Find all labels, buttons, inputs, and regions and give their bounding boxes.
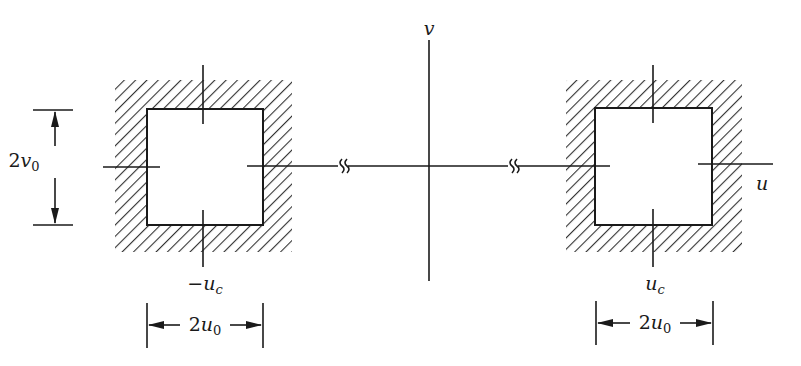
v-label-text: v: [424, 17, 435, 39]
arrow-down-icon: [51, 208, 59, 224]
dim-number: 2: [8, 149, 20, 171]
dim-subscript: 0: [31, 159, 39, 174]
minus-sign: −: [187, 272, 203, 294]
dim-variable: u: [201, 313, 213, 335]
dim-variable: v: [21, 149, 32, 171]
axis-break-icon: [340, 159, 344, 173]
center-subscript: c: [657, 282, 664, 297]
left-inner-square: [147, 109, 263, 225]
right-width-dimension-label: 2u0: [637, 313, 674, 335]
center-subscript: c: [215, 282, 222, 297]
dim-subscript: 0: [213, 323, 221, 338]
dim-number: 2: [639, 311, 651, 333]
right-center-label: uc: [643, 274, 667, 296]
u-label-text: u: [756, 172, 768, 194]
height-dimension-label: 2v0: [6, 151, 41, 173]
dim-number: 2: [189, 313, 201, 335]
arrow-left-icon: [148, 321, 164, 329]
arrow-left-icon: [597, 319, 613, 327]
left-center-label: −uc: [185, 274, 224, 296]
axis-break-icon: [510, 159, 514, 173]
left-width-dimension-label: 2u0: [187, 315, 224, 337]
dim-subscript: 0: [663, 321, 671, 336]
dim-variable: u: [651, 311, 663, 333]
arrow-right-icon: [246, 321, 262, 329]
arrow-up-icon: [51, 111, 59, 127]
arrow-right-icon: [696, 319, 712, 327]
u-axis-label: u: [754, 174, 770, 193]
center-variable: u: [645, 272, 657, 294]
filter-diagram: [0, 0, 801, 366]
center-variable: u: [203, 272, 215, 294]
v-axis-label: v: [422, 19, 437, 38]
right-inner-square: [595, 108, 712, 225]
